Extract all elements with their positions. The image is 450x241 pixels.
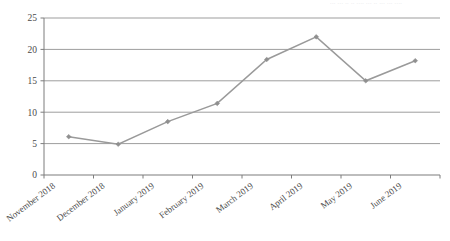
- plot-area-background: [44, 18, 440, 175]
- x-tick-label-group: November 2018December 2018January 2019Fe…: [4, 180, 403, 223]
- y-tick-group: [41, 18, 45, 175]
- y-tick-label: 10: [28, 108, 38, 118]
- x-tick-label: February 2019: [157, 180, 206, 220]
- y-tick-label: 5: [32, 139, 37, 149]
- line-chart-figure: ... ... .. .. .... ... .. ... ... .... 0…: [0, 0, 450, 241]
- x-tick-label: January 2019: [111, 180, 156, 217]
- y-tick-label: 0: [32, 170, 37, 180]
- scan-artifact-text: ... ... .. .. .... ... .. ... ... ....: [330, 0, 448, 5]
- y-tick-label: 15: [28, 76, 38, 86]
- y-tick-label: 20: [28, 45, 38, 55]
- x-tick-label: November 2018: [4, 180, 57, 223]
- chart-canvas: 0510152025 November 2018December 2018Jan…: [0, 0, 450, 241]
- x-tick-label: April 2019: [267, 180, 305, 212]
- x-tick-label: May 2019: [319, 180, 355, 210]
- x-tick-label: March 2019: [214, 180, 255, 215]
- x-tick-label: June 2019: [368, 180, 404, 210]
- x-tick-label: December 2018: [55, 180, 107, 223]
- y-tick-label-group: 0510152025: [28, 13, 38, 180]
- y-tick-label: 25: [28, 13, 38, 23]
